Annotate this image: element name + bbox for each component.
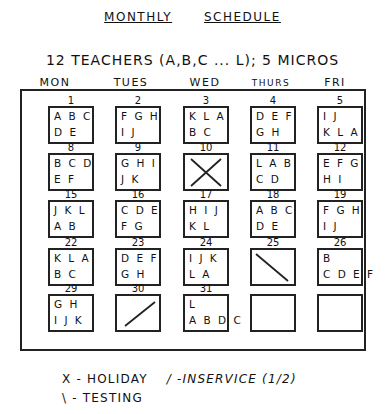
day-number: 19 bbox=[319, 189, 361, 200]
teacher-group-line1: F G H bbox=[323, 204, 359, 216]
day-cell: 10 bbox=[183, 153, 229, 191]
day-cell: 4D E FG H bbox=[250, 106, 296, 144]
day-number: 3 bbox=[185, 95, 227, 106]
day-cell: 9G H IJ K bbox=[115, 153, 161, 191]
teacher-group-line1: G H I bbox=[121, 157, 157, 169]
teacher-group-line2: I J K bbox=[54, 314, 90, 326]
day-cell: 15J K LA B bbox=[48, 200, 94, 238]
day-number: 9 bbox=[117, 142, 159, 153]
teacher-group-line1: L A B bbox=[256, 157, 292, 169]
legend-inservice: / -INSERVICE (1/2) bbox=[167, 372, 297, 386]
teacher-group-line1: G H bbox=[54, 298, 90, 310]
day-number: 23 bbox=[117, 237, 159, 248]
day-cell: 23D E FG H bbox=[115, 248, 161, 286]
title-monthly: MONTHLY bbox=[104, 10, 172, 24]
day-cell: 30 bbox=[115, 294, 161, 332]
teacher-group-line2: G H bbox=[256, 126, 292, 138]
teacher-group-line2: C D bbox=[256, 173, 292, 185]
teacher-group-line1: B C D bbox=[54, 157, 90, 169]
day-label-wed: WED bbox=[172, 76, 238, 89]
teacher-group-line1: B bbox=[323, 252, 359, 264]
teacher-group-line2: D E bbox=[256, 220, 292, 232]
teacher-group-line2: F G bbox=[121, 220, 157, 232]
day-cell: 24I J KL A bbox=[183, 248, 229, 286]
teacher-group-line1: A B C bbox=[256, 204, 292, 216]
page-title: MONTHLY SCHEDULE bbox=[0, 10, 385, 24]
weekday-header: MON TUES WED THURS FRI bbox=[22, 76, 372, 90]
teacher-group-line2: K L bbox=[189, 220, 225, 232]
teacher-group-line2: I J bbox=[323, 220, 359, 232]
day-cell: 5I JK L A bbox=[317, 106, 363, 144]
day-cell: 26BC D E F bbox=[317, 248, 363, 286]
teacher-group-line2: I J bbox=[121, 126, 157, 138]
teacher-group-line2: B C bbox=[54, 268, 90, 280]
legend-testing: \ - TESTING bbox=[62, 391, 143, 405]
teacher-group-line2: L A bbox=[189, 268, 225, 280]
day-cell: 19F G HI J bbox=[317, 200, 363, 238]
day-label-mon: MON bbox=[22, 76, 88, 89]
teacher-group-line1: L bbox=[189, 298, 225, 310]
day-cell bbox=[317, 294, 363, 332]
day-number: 4 bbox=[252, 95, 294, 106]
day-cell bbox=[250, 294, 296, 332]
teacher-group-line2: D E bbox=[54, 126, 90, 138]
day-number: 10 bbox=[185, 142, 227, 153]
day-cell: 11L A BC D bbox=[250, 153, 296, 191]
day-number: 1 bbox=[50, 95, 92, 106]
day-number: 31 bbox=[185, 283, 227, 294]
day-cell: 18A B CD E bbox=[250, 200, 296, 238]
day-number: 30 bbox=[117, 283, 159, 294]
day-cell: 25 bbox=[250, 248, 296, 286]
holiday-mark-icon bbox=[185, 155, 227, 189]
day-number: 26 bbox=[319, 237, 361, 248]
day-label-tues: TUES bbox=[98, 76, 164, 89]
day-number: 15 bbox=[50, 189, 92, 200]
teacher-group-line1: C D E bbox=[121, 204, 157, 216]
teacher-group-line2: H I bbox=[323, 173, 359, 185]
day-number: 16 bbox=[117, 189, 159, 200]
teacher-group-line2: A B D C bbox=[189, 314, 225, 326]
title-schedule: SCHEDULE bbox=[204, 10, 281, 24]
teacher-group-line1: F G H bbox=[121, 110, 157, 122]
day-number: 12 bbox=[319, 142, 361, 153]
day-label-fri: FRI bbox=[302, 76, 368, 89]
inservice-mark-icon bbox=[117, 296, 159, 330]
day-cell: 12E F GH I bbox=[317, 153, 363, 191]
day-number: 18 bbox=[252, 189, 294, 200]
day-number: 5 bbox=[319, 95, 361, 106]
teacher-group-line1: E F G bbox=[323, 157, 359, 169]
teacher-group-line1: I J K bbox=[189, 252, 225, 264]
day-number: 22 bbox=[50, 237, 92, 248]
day-number: 11 bbox=[252, 142, 294, 153]
teacher-group-line1: K L A bbox=[189, 110, 225, 122]
teacher-group-line1: D E F bbox=[256, 110, 292, 122]
teacher-group-line2: C D E F bbox=[323, 268, 359, 280]
day-cell: 2F G HI J bbox=[115, 106, 161, 144]
day-number: 24 bbox=[185, 237, 227, 248]
teacher-group-line1: D E F bbox=[121, 252, 157, 264]
subtitle: 12 TEACHERS (A,B,C ... L); 5 MICROS bbox=[0, 52, 385, 68]
teacher-group-line1: A B C bbox=[54, 110, 90, 122]
day-cell: 29G HI J K bbox=[48, 294, 94, 332]
day-number: 8 bbox=[50, 142, 92, 153]
day-cell: 22K L AB C bbox=[48, 248, 94, 286]
day-number: 29 bbox=[50, 283, 92, 294]
legend-holiday: X - HOLIDAY bbox=[62, 372, 148, 386]
teacher-group-line1: J K L bbox=[54, 204, 90, 216]
teacher-group-line1: H I J bbox=[189, 204, 225, 216]
legend: X - HOLIDAY / -INSERVICE (1/2) \ - TESTI… bbox=[62, 370, 311, 408]
day-cell: 17H I JK L bbox=[183, 200, 229, 238]
teacher-group-line2: B C bbox=[189, 126, 225, 138]
day-cell: 3K L AB C bbox=[183, 106, 229, 144]
teacher-group-line1: I J bbox=[323, 110, 359, 122]
day-number: 25 bbox=[252, 237, 294, 248]
day-cell: 1A B CD E bbox=[48, 106, 94, 144]
day-number: 17 bbox=[185, 189, 227, 200]
testing-mark-icon bbox=[252, 250, 294, 284]
day-cell: 8B C DE F bbox=[48, 153, 94, 191]
teacher-group-line2: J K bbox=[121, 173, 157, 185]
day-cell: 31LA B D C bbox=[183, 294, 229, 332]
teacher-group-line2: A B bbox=[54, 220, 90, 232]
teacher-group-line2: E F bbox=[54, 173, 90, 185]
teacher-group-line2: K L A bbox=[323, 126, 359, 138]
